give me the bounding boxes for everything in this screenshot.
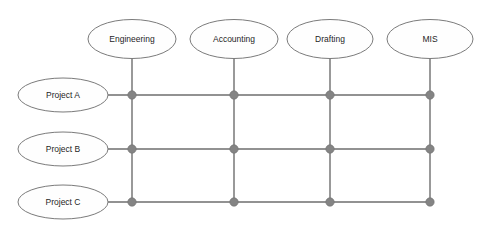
project-connector-lines — [108, 95, 430, 202]
matrix-organization-diagram: EngineeringAccountingDraftingMIS Project… — [0, 0, 487, 230]
intersection-dot[interactable] — [426, 198, 434, 206]
department-label-mis: MIS — [422, 34, 437, 44]
department-label-drafting: Drafting — [315, 34, 345, 44]
project-label-project-b: Project B — [46, 144, 81, 154]
intersection-dot[interactable] — [230, 198, 238, 206]
intersection-dot[interactable] — [426, 145, 434, 153]
intersection-dot[interactable] — [326, 198, 334, 206]
intersection-dot[interactable] — [230, 145, 238, 153]
intersection-dot[interactable] — [128, 145, 136, 153]
project-label-project-a: Project A — [46, 90, 80, 100]
intersection-dot[interactable] — [128, 198, 136, 206]
department-connector-lines — [132, 58, 430, 202]
matrix-diagram-canvas: EngineeringAccountingDraftingMIS Project… — [0, 0, 487, 230]
project-label-project-c: Project C — [46, 197, 81, 207]
department-label-engineering: Engineering — [109, 34, 155, 44]
intersection-dot[interactable] — [426, 91, 434, 99]
intersection-dot[interactable] — [230, 91, 238, 99]
intersection-dot[interactable] — [326, 145, 334, 153]
department-node-group: EngineeringAccountingDraftingMIS — [88, 20, 473, 59]
intersection-dot[interactable] — [128, 91, 136, 99]
project-node-group: Project AProject BProject C — [18, 78, 108, 219]
intersection-dot[interactable] — [326, 91, 334, 99]
department-label-accounting: Accounting — [213, 34, 255, 44]
